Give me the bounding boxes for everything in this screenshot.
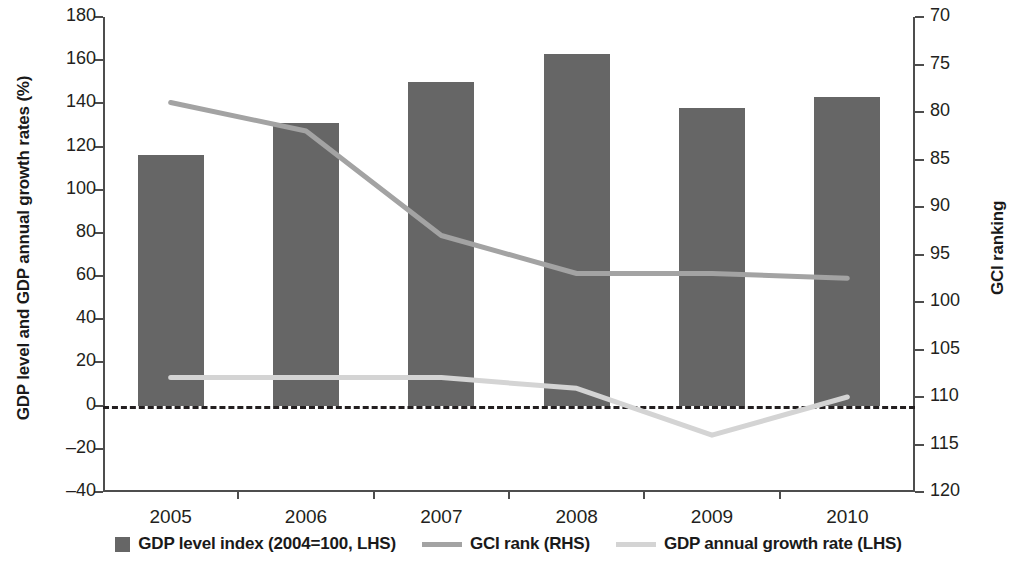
series-polyline	[171, 378, 848, 436]
right-tick-label: 80	[930, 100, 1000, 121]
legend-item[interactable]: GDP level index (2004=100, LHS)	[115, 534, 396, 554]
x-tick-label: 2007	[381, 506, 501, 528]
right-tick-mark	[915, 301, 924, 303]
right-tick-mark	[915, 491, 924, 493]
left-tick-label: 0	[26, 394, 96, 415]
right-tick-label: 110	[930, 385, 1000, 406]
square-swatch-icon	[115, 537, 130, 552]
right-tick-mark	[915, 349, 924, 351]
line-series-gdp-growth-rate	[103, 17, 915, 492]
right-tick-mark	[915, 64, 924, 66]
left-tick-label: 140	[26, 91, 96, 112]
right-tick-label: 90	[930, 195, 1000, 216]
right-tick-label: 70	[930, 5, 1000, 26]
right-tick-mark	[915, 254, 924, 256]
legend-item[interactable]: GCI rank (RHS)	[422, 534, 590, 554]
left-tick-label: 40	[26, 307, 96, 328]
x-tick-label: 2006	[246, 506, 366, 528]
chart-figure: GDP level and GDP annual growth rates (%…	[0, 0, 1017, 564]
right-tick-label: 95	[930, 243, 1000, 264]
right-tick-label: 115	[930, 433, 1000, 454]
legend-item[interactable]: GDP annual growth rate (LHS)	[616, 534, 902, 554]
chart-legend: GDP level index (2004=100, LHS)GCI rank …	[0, 534, 1017, 554]
right-tick-mark	[915, 444, 924, 446]
x-tick-label: 2009	[652, 506, 772, 528]
right-tick-mark	[915, 16, 924, 18]
right-tick-mark	[915, 159, 924, 161]
right-tick-label: 100	[930, 290, 1000, 311]
right-tick-mark	[915, 206, 924, 208]
left-tick-label: 20	[26, 350, 96, 371]
left-tick-label: 60	[26, 264, 96, 285]
legend-label: GCI rank (RHS)	[470, 534, 590, 554]
left-tick-label: 80	[26, 221, 96, 242]
legend-label: GDP annual growth rate (LHS)	[664, 534, 902, 554]
left-tick-label: –40	[26, 480, 96, 501]
plot-area: –40–20020406080100120140160180 707580859…	[103, 17, 915, 492]
line-swatch-icon	[422, 542, 462, 547]
right-tick-mark	[915, 111, 924, 113]
left-tick-label: –20	[26, 437, 96, 458]
line-swatch-icon	[616, 542, 656, 547]
right-tick-label: 120	[930, 480, 1000, 501]
x-tick-label: 2008	[517, 506, 637, 528]
right-tick-label: 105	[930, 338, 1000, 359]
left-tick-label: 160	[26, 48, 96, 69]
x-tick-label: 2010	[787, 506, 907, 528]
legend-label: GDP level index (2004=100, LHS)	[138, 534, 396, 554]
left-tick-label: 180	[26, 5, 96, 26]
right-tick-mark	[915, 396, 924, 398]
right-tick-label: 85	[930, 148, 1000, 169]
x-tick-label: 2005	[111, 506, 231, 528]
left-tick-label: 120	[26, 135, 96, 156]
right-tick-label: 75	[930, 53, 1000, 74]
left-tick-label: 100	[26, 178, 96, 199]
